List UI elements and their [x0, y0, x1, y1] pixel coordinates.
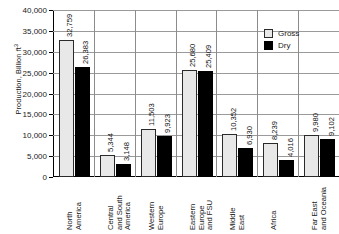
y-axis-tick [49, 10, 53, 11]
y-axis-tick [49, 31, 53, 32]
bar-value-label: 9,102 [327, 117, 336, 136]
y-axis-tick-label: 25,000 [23, 68, 47, 77]
bar-dry[interactable]: 4,016 [279, 160, 294, 177]
bar-value-label: 4,016 [286, 138, 295, 157]
bar-value-label: 9,923 [163, 114, 172, 133]
group-separator [216, 10, 217, 177]
bar-gross[interactable]: 8,239 [263, 143, 278, 177]
bar-value-label: 25,680 [188, 44, 197, 67]
bar-value-label: 32,759 [65, 14, 74, 37]
y-axis-tick-label: 0 [43, 173, 47, 182]
bar-value-label: 10,352 [229, 108, 238, 131]
y-axis-tick [49, 114, 53, 115]
bar-dry[interactable]: 3,148 [116, 164, 131, 177]
bar-value-label: 6,930 [245, 126, 254, 145]
legend-swatch-gross-icon [264, 29, 273, 38]
group-separator [135, 10, 136, 177]
y-axis-tick-label: 20,000 [23, 89, 47, 98]
bar-dry[interactable]: 6,930 [238, 148, 253, 177]
y-axis-tick [49, 177, 53, 178]
y-axis-tick-label: 15,000 [23, 110, 47, 119]
gridline [53, 10, 339, 11]
y-axis-tick [49, 135, 53, 136]
legend-label-gross: Gross [278, 29, 299, 38]
legend-swatch-dry-icon [264, 41, 273, 50]
bar-value-label: 25,409 [204, 45, 213, 68]
legend-label-dry: Dry [278, 41, 290, 50]
x-axis-category-label: Central and South America [107, 182, 133, 230]
y-axis-tick [49, 156, 53, 157]
y-axis-tick [49, 73, 53, 74]
y-axis-title-exponent: 3 [13, 44, 19, 47]
x-axis-category-label: Western Europe [148, 182, 165, 230]
bar-value-label: 5,344 [106, 133, 115, 152]
x-axis-category-label: Eastern Europe and FSU [189, 182, 215, 230]
group-separator [257, 10, 258, 177]
bar-gross[interactable]: 32,759 [59, 40, 74, 177]
legend-item-dry: Dry [264, 41, 299, 50]
x-axis-category-label: Far East and Oceania [311, 182, 328, 230]
bar-value-label: 11,503 [147, 103, 156, 126]
x-axis-category-label: North America [66, 182, 83, 230]
bar-dry[interactable]: 25,409 [198, 71, 213, 177]
x-axis-category-label: Middle East [229, 182, 246, 230]
legend: Gross Dry [264, 29, 299, 53]
x-axis-category-label: Africa [270, 182, 279, 230]
bar-value-label: 26,383 [81, 41, 90, 64]
bar-dry[interactable]: 26,383 [75, 67, 90, 177]
group-separator [176, 10, 177, 177]
bar-value-label: 3,148 [122, 142, 131, 161]
bar-dry[interactable]: 9,923 [157, 136, 172, 177]
bar-gross[interactable]: 5,344 [100, 155, 115, 177]
y-axis-tick-label: 40,000 [23, 6, 47, 15]
production-bar-chart: Production, Billion ft3 40,00035,00030,0… [0, 0, 339, 234]
bar-value-label: 8,239 [270, 121, 279, 140]
bar-gross[interactable]: 9,980 [304, 135, 319, 177]
bar-gross[interactable]: 10,352 [222, 134, 237, 177]
bar-value-label: 9,980 [311, 113, 320, 132]
y-axis-title-text: Production, Billion ft [14, 47, 23, 115]
y-axis-tick-label: 35,000 [23, 26, 47, 35]
y-axis-tick-label: 10,000 [23, 131, 47, 140]
bar-dry[interactable]: 9,102 [320, 139, 335, 177]
y-axis-tick [49, 94, 53, 95]
y-axis-tick-label: 30,000 [23, 47, 47, 56]
y-axis-tick [49, 52, 53, 53]
group-separator [94, 10, 95, 177]
bar-gross[interactable]: 11,503 [141, 129, 156, 177]
legend-item-gross: Gross [264, 29, 299, 38]
y-axis-tick-label: 5,000 [27, 152, 47, 161]
bar-gross[interactable]: 25,680 [182, 70, 197, 177]
